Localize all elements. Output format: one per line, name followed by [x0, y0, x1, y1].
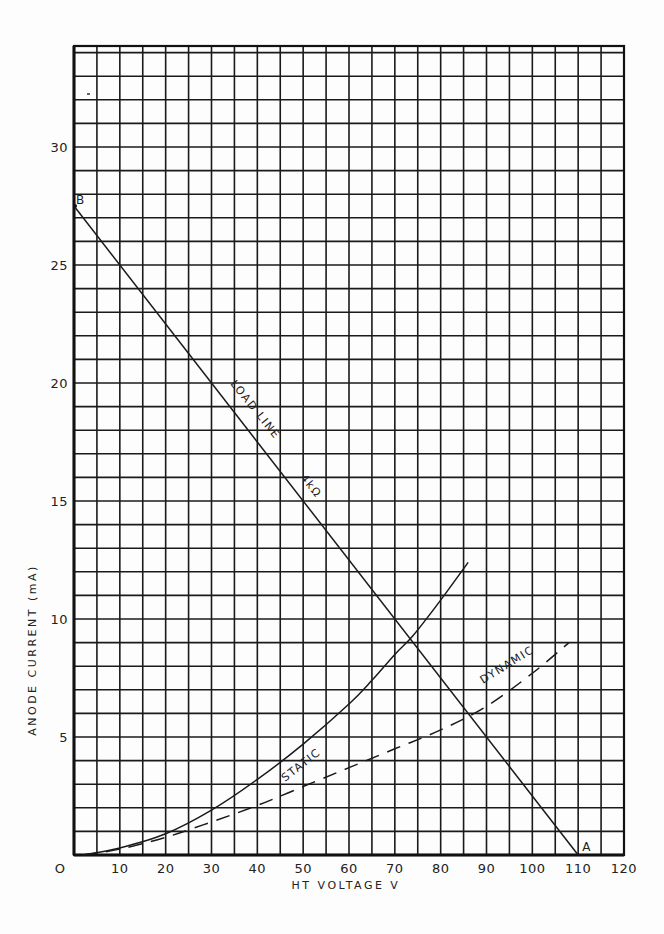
x-axis-ticks: O102030405060708090100110120 [55, 861, 638, 876]
chart: O102030405060708090100110120 51015202530… [0, 0, 664, 934]
x-tick-label: 110 [565, 861, 591, 876]
y-tick-label: 15 [50, 494, 68, 509]
x-tick-label: 20 [157, 861, 175, 876]
x-tick-label: 30 [203, 861, 221, 876]
x-tick-label: 120 [611, 861, 637, 876]
x-tick-label: 100 [519, 861, 545, 876]
y-tick-label: 20 [50, 376, 68, 391]
x-tick-label: 40 [249, 861, 267, 876]
y-axis-label: ANODE CURRENT (mA) [26, 564, 39, 736]
y-axis-ticks: 51015202530 [50, 140, 68, 745]
x-tick-label: 70 [386, 861, 404, 876]
x-axis-label: HT VOLTAGE V [292, 879, 401, 892]
load-line-label: LOAD LINE [228, 378, 283, 442]
y-tick-label: 25 [50, 258, 68, 273]
chart-labels: LOAD LINE4kΩSTATICDYNAMICAB [76, 193, 591, 854]
point-a-label: A [582, 840, 591, 854]
x-tick-label: 80 [432, 861, 450, 876]
y-tick-label: 10 [50, 612, 68, 627]
static-curve-label: STATIC [279, 746, 323, 785]
chart-grid [74, 46, 624, 855]
static-curve [83, 562, 468, 855]
point-b-label: B [76, 193, 84, 207]
y-tick-label: 30 [50, 140, 68, 155]
x-tick-label: 50 [294, 861, 312, 876]
x-tick-label: 60 [340, 861, 358, 876]
load-resistance-label: 4kΩ [298, 472, 325, 501]
x-tick-label: O [55, 861, 66, 876]
y-tick-label: 5 [59, 730, 68, 745]
x-tick-label: 90 [478, 861, 496, 876]
x-tick-label: 10 [111, 861, 129, 876]
